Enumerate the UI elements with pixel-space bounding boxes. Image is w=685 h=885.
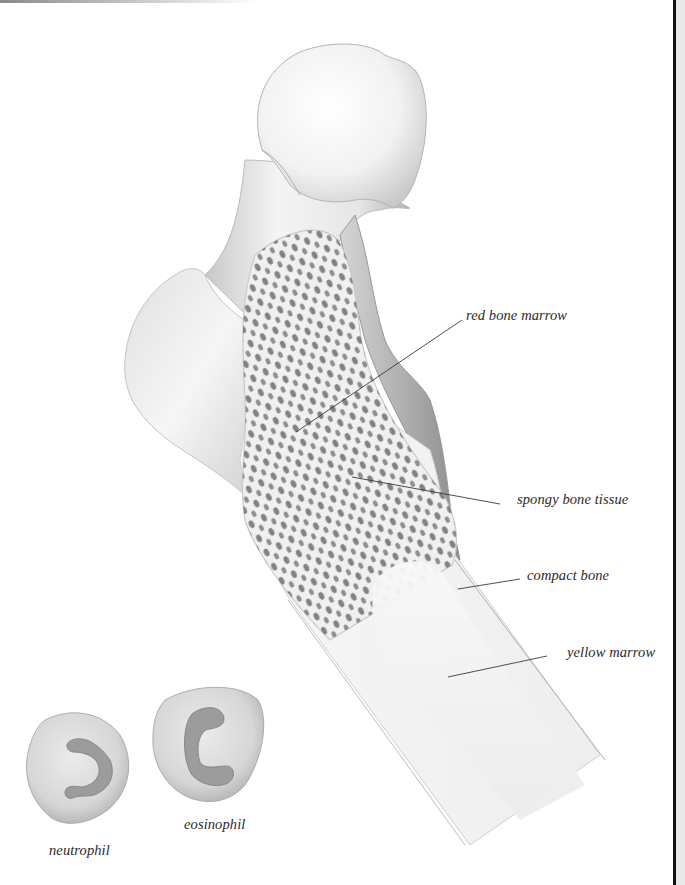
label-spongy-bone-tissue: spongy bone tissue	[517, 491, 628, 508]
label-compact-bone: compact bone	[527, 567, 609, 584]
label-neutrophil: neutrophil	[49, 842, 110, 859]
label-yellow-marrow: yellow marrow	[567, 644, 655, 661]
label-red-bone-marrow: red bone marrow	[466, 307, 567, 324]
neutrophil-cell	[26, 713, 128, 824]
label-eosinophil: eosinophil	[184, 816, 245, 833]
femur-illustration	[0, 0, 685, 885]
eosinophil-cell	[153, 687, 264, 801]
